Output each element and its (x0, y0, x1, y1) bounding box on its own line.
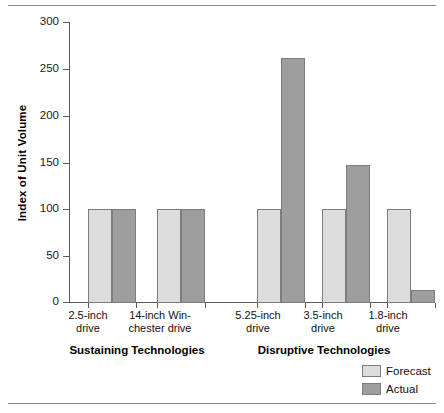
top-divider-rule (8, 5, 436, 6)
category-label-line1: 3.5-inch (297, 309, 349, 322)
x-tick-9 (435, 303, 436, 308)
y-axis-line (69, 22, 70, 303)
x-tick-1 (136, 303, 137, 308)
y-tick-label-250: 250 (40, 63, 59, 75)
category-label-1-8-inch: 1.8-inch drive (362, 309, 414, 335)
bottom-divider-rule (8, 403, 436, 404)
y-tick-label-300: 300 (40, 16, 59, 28)
category-label-line1: 5.25-inch (229, 309, 287, 322)
x-tick-0 (88, 303, 89, 308)
category-label-line2: drive (229, 322, 287, 335)
chart-plot-area: 300 250 200 150 100 50 0 (69, 22, 427, 303)
x-tick-8 (387, 303, 388, 308)
x-tick-6 (322, 303, 323, 308)
y-tick-250: 250 (63, 69, 69, 70)
group-label-disruptive: Disruptive Technologies (232, 344, 416, 356)
category-label-14-inch-winchester: 14-inch Win- chester drive (120, 309, 200, 335)
y-tick-150: 150 (63, 163, 69, 164)
category-label-line2: drive (63, 322, 113, 335)
category-label-line2: drive (362, 322, 414, 335)
bar-forecast-5-25-inch[interactable] (257, 209, 281, 303)
bar-actual-5-25-inch[interactable] (281, 58, 305, 303)
y-axis-title-holder: Index of Unit Volume (14, 22, 30, 303)
y-axis-title: Index of Unit Volume (16, 104, 28, 221)
legend-swatch-actual-icon (362, 383, 381, 395)
bar-actual-2-5-inch[interactable] (112, 209, 136, 303)
category-label-3-5-inch: 3.5-inch drive (297, 309, 349, 335)
bar-forecast-14-inch-winchester[interactable] (157, 209, 181, 303)
y-tick-label-150: 150 (40, 157, 59, 169)
bar-forecast-2-5-inch[interactable] (88, 209, 112, 303)
category-label-5-25-inch: 5.25-inch drive (229, 309, 287, 335)
bar-forecast-1-8-inch[interactable] (387, 209, 411, 303)
y-tick-100: 100 (63, 209, 69, 210)
legend-item-actual[interactable]: Actual (362, 381, 431, 397)
category-label-line1: 14-inch Win- (120, 309, 200, 322)
y-tick-200: 200 (63, 116, 69, 117)
x-tick-7 (370, 303, 371, 308)
x-tick-2 (157, 303, 158, 308)
legend-label-forecast: Forecast (386, 363, 431, 379)
x-tick-5 (305, 303, 306, 308)
bar-forecast-3-5-inch[interactable] (322, 209, 346, 303)
bar-actual-1-8-inch[interactable] (411, 290, 435, 303)
y-tick-label-0: 0 (53, 296, 59, 308)
bar-actual-3-5-inch[interactable] (346, 165, 370, 303)
chart-legend: Forecast Actual (362, 363, 431, 399)
legend-item-forecast[interactable]: Forecast (362, 363, 431, 379)
y-tick-label-50: 50 (46, 250, 59, 262)
y-tick-50: 50 (63, 256, 69, 257)
category-label-line1: 1.8-inch (362, 309, 414, 322)
x-tick-3 (205, 303, 206, 308)
legend-swatch-forecast-icon (362, 365, 381, 377)
category-label-line1: 2.5-inch (63, 309, 113, 322)
y-tick-label-200: 200 (40, 110, 59, 122)
x-tick-4 (257, 303, 258, 308)
legend-label-actual: Actual (386, 381, 418, 397)
y-tick-300: 300 (63, 22, 69, 23)
group-label-sustaining: Sustaining Technologies (63, 344, 211, 356)
category-label-line2: chester drive (120, 322, 200, 335)
bar-actual-14-inch-winchester[interactable] (181, 209, 205, 303)
category-label-2-5-inch: 2.5-inch drive (63, 309, 113, 335)
category-label-line2: drive (297, 322, 349, 335)
y-tick-label-100: 100 (40, 204, 59, 216)
y-tick-0: 0 (63, 302, 69, 303)
